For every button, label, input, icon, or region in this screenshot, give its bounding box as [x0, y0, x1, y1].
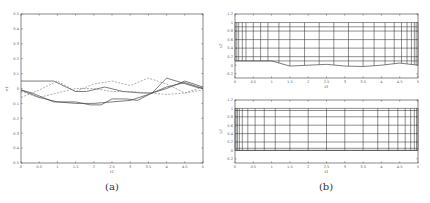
series-dashed-2 [21, 89, 203, 98]
figure: 00.511.522.533.544.55-0.5-0.4-0.3-0.2-0.… [0, 0, 430, 203]
x-tick-label: 4.5 [397, 165, 403, 169]
y-tick-label: 0.6 [227, 38, 233, 42]
x-tick-label: 1 [270, 80, 272, 84]
x-tick-label: 5 [202, 165, 204, 169]
y-tick-label: -0.5 [12, 161, 19, 165]
x-tick-label: 4.5 [397, 80, 403, 84]
y-tick-label: -0.3 [12, 132, 19, 136]
x-tick-label: 0 [234, 80, 237, 84]
y-tick-label: 0.5 [13, 12, 19, 16]
x-tick-label: 4.5 [182, 165, 188, 169]
y-tick-label: 0.2 [13, 57, 19, 61]
x-tick-label: 0.5 [250, 165, 256, 169]
x-tick-label: 3 [344, 80, 346, 84]
x-tick-label: 4 [165, 165, 168, 169]
x-tick-label: 3 [129, 165, 131, 169]
x-tick-label: 1.5 [73, 165, 79, 169]
y-axis-label: e1 [4, 86, 9, 91]
y-tick-label: 0.6 [227, 124, 233, 128]
axes-frame [235, 14, 418, 78]
y-tick-label: 0 [17, 87, 20, 91]
y-tick-label: 0.8 [227, 29, 233, 33]
x-tick-label: 0 [20, 165, 23, 169]
y-tick-label: 0 [231, 64, 234, 68]
y-tick-label: 1.2 [227, 98, 233, 102]
x-tick-label: 0.5 [250, 80, 256, 84]
y-tick-label: 0.1 [13, 72, 19, 76]
x-tick-label: 2 [93, 165, 95, 169]
y-tick-label: 1 [231, 21, 233, 25]
x-tick-label: 2 [307, 80, 309, 84]
y-tick-label: 0.4 [13, 27, 19, 31]
y-tick-label: 1 [231, 107, 233, 111]
y-tick-label: -0.2 [226, 157, 233, 161]
x-axis-label: t1 [110, 169, 114, 174]
y-tick-label: -0.1 [12, 102, 19, 106]
y-tick-label: 0.3 [13, 42, 19, 46]
y-tick-label: 0.8 [227, 115, 233, 119]
x-tick-label: 1.5 [287, 165, 293, 169]
y-tick-label: 0.2 [227, 140, 233, 144]
y-tick-label: -0.2 [12, 117, 19, 121]
x-tick-label: 2 [307, 165, 309, 169]
x-axis-label: t1 [324, 169, 328, 174]
y-tick-label: 0.4 [227, 46, 233, 50]
x-tick-label: 5 [417, 80, 419, 84]
series-solid-3 [21, 83, 203, 104]
y-tick-label: -0.2 [226, 72, 233, 76]
x-tick-label: 0.5 [36, 165, 42, 169]
x-tick-label: 3 [344, 165, 346, 169]
plot-b-top: 00.511.522.533.544.55-0.200.20.40.60.811… [218, 12, 419, 89]
caption-b: (b) [319, 181, 333, 192]
y-tick-label: -0.4 [12, 146, 20, 150]
x-tick-label: 4 [380, 80, 383, 84]
x-tick-label: 0 [234, 165, 237, 169]
plot-b-bottom: 00.511.522.533.544.55-0.200.20.40.60.811… [218, 98, 419, 174]
mesh-bottom-boundary [235, 61, 418, 67]
x-axis-label: t1 [324, 84, 328, 89]
x-tick-label: 3.5 [360, 165, 366, 169]
y-tick-label: 0.4 [227, 132, 233, 136]
plot-a: 00.511.522.533.544.55-0.5-0.4-0.3-0.2-0.… [4, 12, 204, 174]
x-tick-label: 3.5 [146, 165, 152, 169]
x-tick-label: 3.5 [360, 80, 366, 84]
x-tick-label: 5 [417, 165, 419, 169]
x-tick-label: 1 [270, 165, 272, 169]
caption-a: (a) [105, 181, 119, 192]
x-tick-label: 1 [56, 165, 58, 169]
y-tick-label: 0 [231, 149, 234, 153]
y-tick-label: 0.2 [227, 55, 233, 59]
y-tick-label: 1.2 [227, 12, 233, 16]
x-tick-label: 1.5 [287, 80, 293, 84]
y-axis-label: x2 [218, 43, 223, 48]
x-tick-label: 4 [380, 165, 383, 169]
y-axis-label: x2 [218, 129, 223, 134]
